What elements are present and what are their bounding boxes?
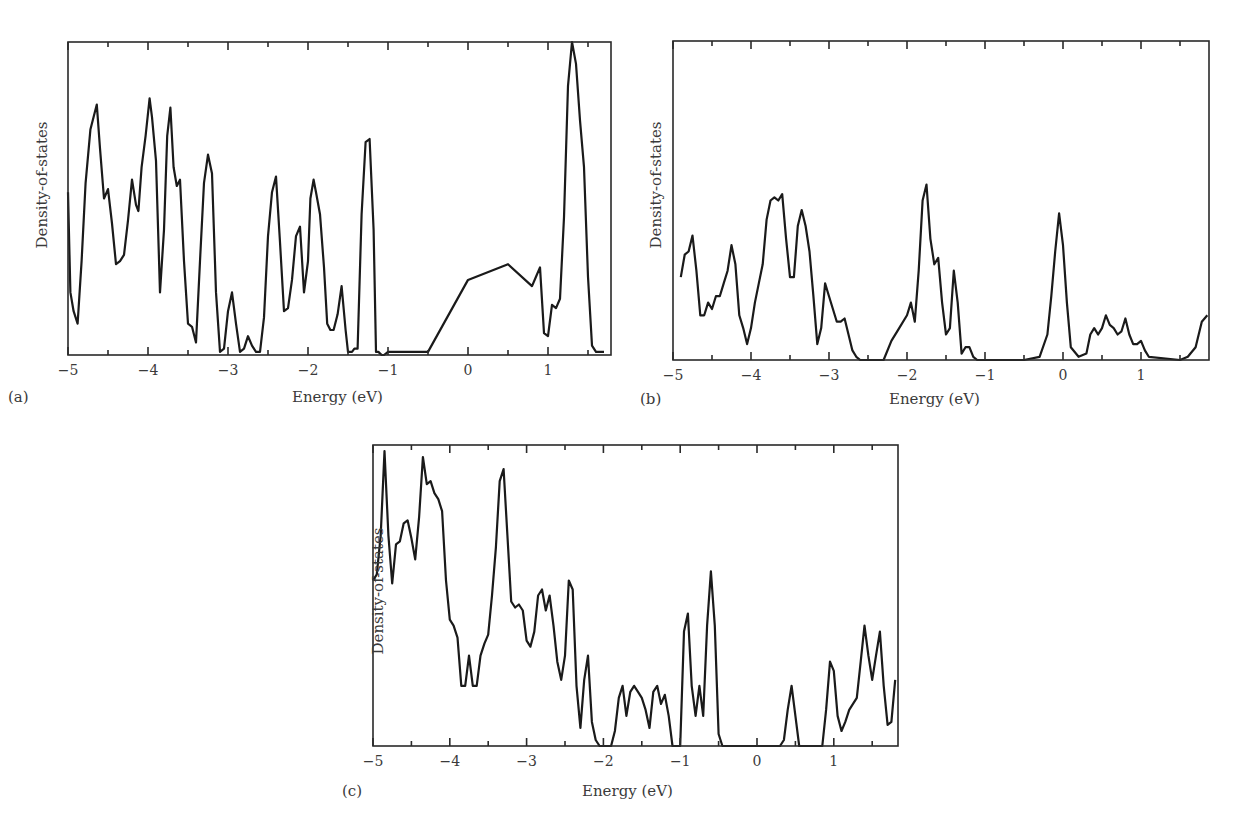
x-tick-label: −5 <box>363 753 384 769</box>
x-tick-label: −3 <box>516 753 537 769</box>
panel-c-ylabel: Density-of-states <box>369 521 387 661</box>
panel-c-label: (c) <box>342 782 362 800</box>
dos-curve <box>373 451 895 746</box>
x-tick-label: −2 <box>593 753 614 769</box>
x-tick-label: −4 <box>439 753 460 769</box>
panel-c-xlabel: Energy (eV) <box>582 782 673 800</box>
x-tick-label: 0 <box>753 753 762 769</box>
x-tick-label: 1 <box>829 753 838 769</box>
x-tick-label: −1 <box>670 753 691 769</box>
panel-c: −5−4−3−2−101 (c) Energy (eV) Density-of-… <box>0 0 1238 829</box>
plot-frame <box>373 445 898 746</box>
dos-chart-c: −5−4−3−2−101 <box>0 0 1238 829</box>
